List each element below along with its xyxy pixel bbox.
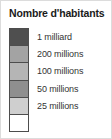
legend-label-25-millions: 25 millions: [37, 97, 109, 114]
legend-label-spacer: [37, 115, 109, 132]
legend-swatch-200-millions: [10, 45, 28, 62]
legend-label-1-milliard: 1 milliard: [37, 28, 109, 45]
legend-label-100-millions: 100 millions: [37, 63, 109, 80]
legend-swatch-25-millions: [10, 97, 28, 114]
legend-swatch-50-millions: [10, 80, 28, 97]
legend-color-ramp: [9, 28, 29, 132]
legend-label-50-millions: 50 millions: [37, 80, 109, 97]
legend-swatch-1-milliard: [10, 29, 28, 45]
legend-title: Nombre d'habitants: [9, 7, 104, 19]
map-legend: Nombre d'habitants 1 milliard 200 millio…: [0, 0, 112, 139]
legend-label-list: 1 milliard 200 millions 100 millions 50 …: [37, 28, 109, 132]
legend-swatch-lowest: [10, 114, 28, 131]
legend-label-200-millions: 200 millions: [37, 45, 109, 62]
legend-swatch-100-millions: [10, 62, 28, 79]
